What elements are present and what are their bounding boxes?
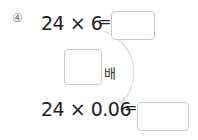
unit-label: 배 <box>104 63 116 82</box>
answer-input-2[interactable] <box>137 102 189 131</box>
expression-2: 24 × 0.06 <box>41 98 131 120</box>
expression-1: 24 × 6 <box>41 12 102 34</box>
multiplier-input[interactable] <box>64 49 102 85</box>
equals-1: = <box>98 12 111 31</box>
equals-2: = <box>124 98 137 117</box>
answer-input-1[interactable] <box>111 11 155 40</box>
problem-number: ④ <box>12 11 23 25</box>
